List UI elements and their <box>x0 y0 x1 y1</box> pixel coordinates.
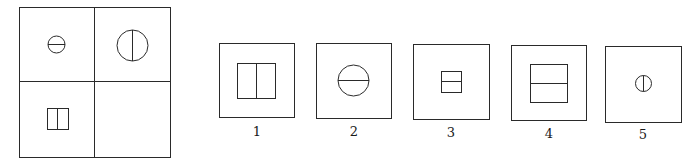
option-3[interactable]: 3 <box>414 45 490 141</box>
puzzle-canvas: 1 2 3 4 5 <box>0 0 699 159</box>
option-label: 2 <box>350 124 358 139</box>
option-2[interactable]: 2 <box>317 44 392 140</box>
matrix-cell-top-left <box>48 36 65 53</box>
option-label: 3 <box>447 125 455 140</box>
option-5[interactable]: 5 <box>606 47 682 143</box>
option-label: 5 <box>639 127 647 142</box>
matrix-cell-bottom-left <box>48 109 69 130</box>
matrix-cell-top-right <box>117 30 148 61</box>
option-1[interactable]: 1 <box>220 44 295 140</box>
matrix-grid <box>20 8 171 158</box>
option-label: 1 <box>253 124 261 139</box>
option-4[interactable]: 4 <box>512 46 587 142</box>
option-label: 4 <box>545 126 553 141</box>
